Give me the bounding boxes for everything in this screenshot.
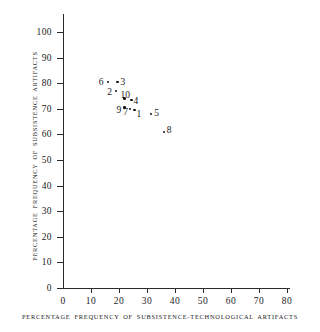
x-axis-tick-label: 80 (275, 296, 299, 306)
data-point (163, 131, 166, 134)
x-axis-tick (231, 288, 232, 293)
y-axis-tick (57, 186, 63, 187)
y-axis-tick (57, 134, 63, 135)
data-point (130, 99, 133, 102)
y-axis-tick (57, 237, 63, 238)
data-point (115, 90, 118, 93)
x-axis-tick (175, 288, 176, 293)
x-axis-title: PERCENTAGE FREQUENCY OF SUBSISTENCE-TECH… (0, 313, 320, 321)
x-axis-tick-label: 40 (163, 296, 187, 306)
y-axis-line (63, 14, 64, 289)
x-axis-line (63, 288, 290, 289)
data-point (133, 109, 136, 112)
data-point-label: 4 (134, 96, 139, 106)
x-axis-tick (147, 288, 148, 293)
x-axis-tick-label: 0 (51, 296, 75, 306)
y-axis-tick-label: 0 (22, 283, 52, 293)
data-point-label: 2 (107, 87, 112, 97)
y-axis-tick (57, 160, 63, 161)
y-axis-tick (57, 83, 63, 84)
data-point-label: 6 (99, 77, 104, 87)
y-axis-tick (57, 109, 63, 110)
data-point-label: 1 (136, 109, 141, 119)
x-axis-tick (287, 288, 288, 293)
data-point-label: 10 (121, 90, 131, 100)
x-axis-tick (91, 288, 92, 293)
data-point (129, 108, 132, 111)
y-axis-tick (57, 32, 63, 33)
x-axis-tick (119, 288, 120, 293)
data-point-label: 7 (123, 107, 128, 117)
data-point (150, 113, 153, 116)
scatter-plot-figure: 0102030405060708090100 01020304050607080… (0, 0, 320, 332)
x-axis-tick-label: 60 (219, 296, 243, 306)
data-point (107, 81, 110, 84)
y-axis-title: PERCENTAGE FREQUENCY OF SUBSISTENCE ARTI… (31, 36, 39, 276)
data-point-label: 8 (167, 125, 172, 135)
y-axis-tick (57, 58, 63, 59)
x-axis-tick (259, 288, 260, 293)
data-point-label: 9 (117, 105, 122, 115)
data-point-label: 3 (121, 77, 126, 87)
y-axis-tick (57, 262, 63, 263)
x-axis-tick-label: 10 (79, 296, 103, 306)
x-axis-tick (203, 288, 204, 293)
data-point-label: 5 (154, 108, 159, 118)
x-axis-tick-label: 70 (247, 296, 271, 306)
x-axis-tick-label: 20 (107, 296, 131, 306)
x-axis-tick-label: 50 (191, 296, 215, 306)
data-point (116, 81, 119, 84)
x-axis-tick-label: 30 (135, 296, 159, 306)
y-axis-tick (57, 288, 63, 289)
y-axis-tick (57, 211, 63, 212)
